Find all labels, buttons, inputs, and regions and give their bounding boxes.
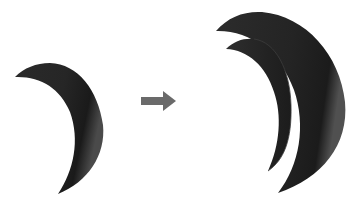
arrow-right-icon	[141, 91, 176, 111]
left-shell	[15, 63, 103, 194]
shell-shape-icon	[15, 63, 103, 194]
diagram-canvas	[0, 0, 358, 212]
